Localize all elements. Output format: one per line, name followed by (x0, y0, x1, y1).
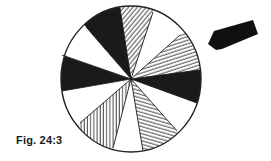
figure-caption: Fig. 24:3 (16, 134, 62, 146)
arrow-icon (208, 20, 258, 50)
